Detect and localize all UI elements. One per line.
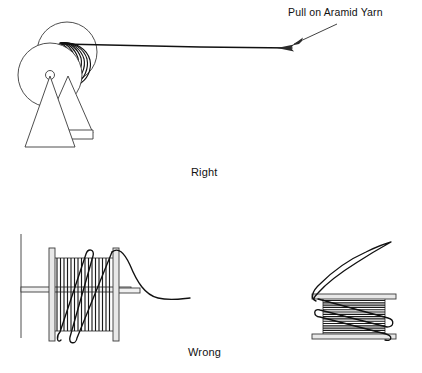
caption-right: Right: [191, 166, 217, 178]
technical-diagram: Pull on Aramid Yarn Right Wrong: [0, 0, 422, 373]
spool-left-flange: [49, 248, 55, 341]
wrong-panel-right-group: [312, 242, 396, 340]
caption-wrong: Wrong: [188, 346, 221, 358]
spool-windings-vertical: [57, 258, 110, 331]
spool-right-flange: [113, 248, 119, 341]
diagram-canvas: [0, 0, 422, 373]
spool-axle-stub: [118, 288, 140, 293]
spool-windings-horizontal: [323, 301, 385, 333]
annotation-leader-arrowhead: [292, 38, 303, 46]
wrong-panel-left-group: [21, 234, 190, 343]
yarn-tail-lifted: [313, 242, 391, 301]
pull-on-aramid-yarn-label: Pull on Aramid Yarn: [288, 6, 383, 18]
right-panel-group: [18, 22, 337, 147]
spool-top-flange: [312, 294, 396, 299]
spool-bottom-flange: [312, 334, 396, 339]
